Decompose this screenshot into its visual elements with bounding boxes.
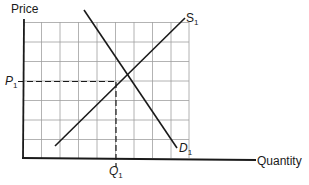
q1-label: Q1 xyxy=(109,164,123,180)
x-axis-label: Quantity xyxy=(257,154,302,168)
d1-label: D1 xyxy=(179,141,193,157)
y-axis-label: Price xyxy=(11,2,39,16)
p1-label: P1 xyxy=(5,74,18,90)
s1-label: S1 xyxy=(186,11,199,27)
supply-demand-diagram: Price Quantity S1 D1 P1 Q1 xyxy=(0,0,309,185)
x-axis xyxy=(22,158,256,160)
demand-curve-d1 xyxy=(84,10,177,148)
y-axis xyxy=(23,19,24,159)
